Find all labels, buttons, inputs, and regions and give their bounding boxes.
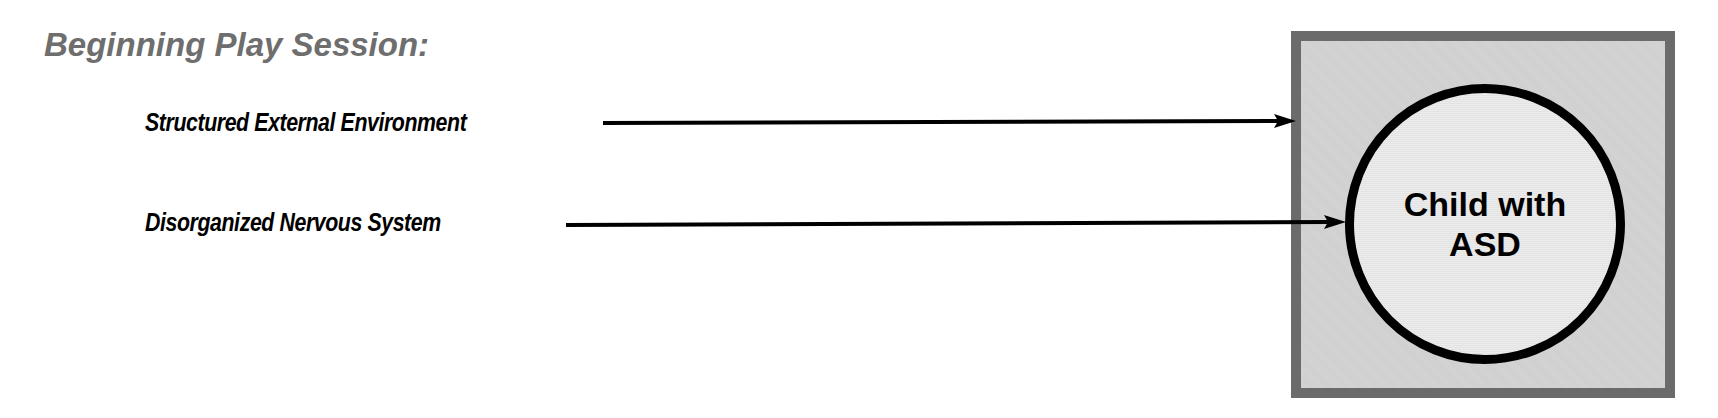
arrow-environment-to-box	[603, 114, 1296, 128]
arrows-layer	[0, 0, 1718, 418]
arrow-nervous-system-to-circle	[566, 215, 1346, 229]
